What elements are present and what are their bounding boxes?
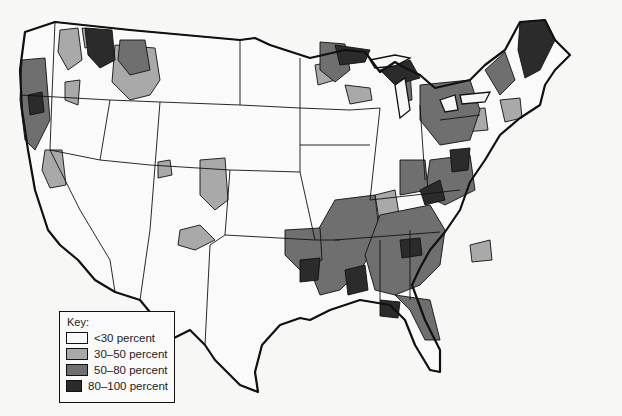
map-legend: Key: <30 percent 30–50 percent 50–80 per… (59, 311, 175, 403)
legend-label: <30 percent (94, 332, 155, 344)
legend-label: 30–50 percent (94, 348, 168, 360)
legend-item-80-100: 80–100 percent (66, 378, 168, 394)
swatch-50-80 (66, 364, 88, 376)
legend-title: Key: (67, 316, 168, 328)
legend-label: 50–80 percent (94, 364, 168, 376)
swatch-lt30 (66, 332, 88, 344)
swatch-80-100 (66, 380, 82, 392)
legend-label: 80–100 percent (88, 380, 168, 392)
swatch-30-50 (66, 348, 88, 360)
legend-item-50-80: 50–80 percent (66, 362, 168, 378)
legend-item-lt30: <30 percent (66, 330, 168, 346)
legend-item-30-50: 30–50 percent (66, 346, 168, 362)
